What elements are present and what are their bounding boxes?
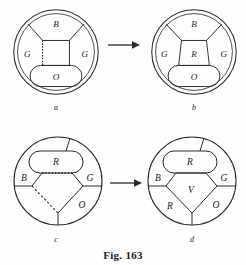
sublabel-d: d	[185, 235, 199, 244]
arrow-c-to-d-glyph	[109, 176, 143, 190]
figure-caption: Fig. 163	[0, 249, 246, 261]
region-label-R: R	[52, 157, 59, 167]
spoke-upper-left	[28, 24, 42, 40]
arrow-c-to-d	[109, 176, 143, 194]
arrow-a-to-b-glyph	[107, 38, 141, 52]
cell-lower-left-dashed-edge	[32, 186, 58, 213]
region-label-R-top: R	[186, 157, 193, 167]
panel-a-diagram: B G G O	[6, 4, 106, 100]
panel-b: B G G O R	[144, 4, 244, 100]
region-label-G-right: G	[220, 49, 227, 59]
trapezoid-left-edge	[179, 40, 182, 65]
sublabel-c: c	[49, 235, 63, 244]
region-label-R-bottom: R	[166, 201, 173, 211]
region-label-B: B	[21, 173, 27, 183]
spoke-top-to-capsule	[200, 138, 204, 151]
sublabel-a: a	[49, 103, 63, 112]
region-label-G: G	[221, 173, 228, 183]
arrow-head	[132, 41, 140, 49]
spoke-upper-right	[69, 24, 83, 40]
spoke-upper-left	[166, 24, 181, 40]
cell-upper-left-edge	[32, 173, 42, 186]
region-label-O: O	[53, 72, 60, 82]
trapezoid-right-edge	[206, 40, 209, 65]
region-label-B: B	[191, 19, 197, 29]
region-label-G: G	[87, 173, 94, 183]
panel-b-diagram: B G G O R	[144, 4, 244, 100]
panel-c: R B G O	[6, 133, 110, 233]
figure-page: B G G O a B G G O R	[0, 0, 246, 265]
region-label-G-right: G	[82, 49, 89, 59]
region-label-O: O	[213, 200, 220, 210]
arrow-a-to-b	[107, 38, 141, 56]
panel-a: B G G O	[6, 4, 106, 100]
region-label-G-left: G	[24, 49, 31, 59]
cell-upper-right-edge	[206, 173, 217, 186]
region-label-O: O	[191, 72, 198, 82]
cell-upper-right-edge	[72, 173, 83, 186]
spoke-top-to-capsule	[66, 138, 70, 151]
region-label-B: B	[53, 19, 59, 29]
panel-d: R B G V R O	[140, 133, 244, 233]
region-label-O: O	[79, 200, 86, 210]
spoke-upper-right	[206, 24, 221, 40]
region-label-V: V	[188, 185, 195, 195]
sublabel-b: b	[187, 103, 201, 112]
cell-upper-left-edge	[166, 173, 176, 186]
region-label-R: R	[190, 49, 197, 59]
panel-c-diagram: R B G O	[6, 133, 110, 233]
region-label-B: B	[155, 173, 161, 183]
panel-d-diagram: R B G V R O	[140, 133, 244, 233]
region-label-G-left: G	[161, 49, 168, 59]
